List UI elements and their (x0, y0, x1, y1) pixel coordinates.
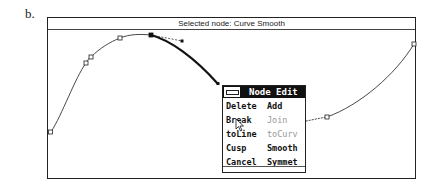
curve-node[interactable] (89, 55, 93, 59)
curve-path-right-2[interactable] (327, 44, 414, 117)
menu-title: Node Edit (249, 86, 298, 98)
menu-item-join[interactable]: Join (267, 115, 287, 126)
menu-item-cusp[interactable]: Cusp (226, 143, 246, 154)
menu-divider (223, 166, 305, 167)
curve-node[interactable] (118, 36, 122, 40)
mouse-pointer-icon (235, 118, 245, 132)
curve-node[interactable] (49, 130, 53, 134)
menu-title-bar: Node Edit (223, 86, 305, 98)
menu-item-tocurve[interactable]: toCurv (267, 129, 298, 140)
system-menu-icon[interactable] (224, 87, 240, 97)
tangent-handle[interactable] (181, 40, 184, 43)
curve-node[interactable] (84, 61, 88, 65)
selected-node[interactable] (149, 33, 153, 37)
menu-item-delete[interactable]: Delete (226, 101, 257, 112)
curve-node[interactable] (217, 82, 220, 85)
curve-node[interactable] (325, 115, 329, 119)
curve-canvas[interactable] (0, 0, 437, 189)
menu-item-add[interactable]: Add (267, 101, 282, 112)
menu-item-smooth[interactable]: Smooth (267, 143, 298, 154)
curve-node[interactable] (412, 42, 416, 46)
curve-path[interactable] (51, 34, 151, 132)
selected-curve-segment[interactable] (151, 35, 218, 84)
curve-path-right[interactable] (306, 117, 327, 121)
